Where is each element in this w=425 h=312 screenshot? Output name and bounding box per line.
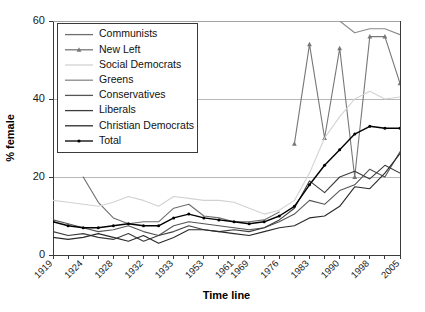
data-point-marker (172, 216, 175, 219)
y-tick-label: 60 (33, 14, 45, 26)
series-line (340, 21, 400, 35)
legend-label: Liberals (99, 103, 136, 115)
data-point-marker (157, 224, 160, 227)
x-tick-label: 1924 (62, 258, 85, 281)
data-point-marker (202, 216, 205, 219)
legend-label: New Left (99, 43, 141, 55)
chart-legend: CommunistsNew LeftSocial DemocratsGreens… (57, 23, 197, 153)
series-line (53, 152, 400, 236)
x-axis-title: Time line (203, 289, 250, 301)
data-point-marker (292, 141, 297, 146)
series-greens (340, 21, 400, 35)
data-point-marker (127, 222, 130, 225)
x-tick-label: 1932 (122, 258, 145, 281)
legend-label: Communists (99, 27, 157, 39)
series-new-left (292, 34, 402, 179)
x-tick-label: 1990 (318, 258, 341, 281)
series-line (53, 154, 400, 244)
x-tick-label: 1998 (349, 258, 372, 281)
x-tick-label: 1953 (183, 258, 206, 281)
data-point-marker (217, 218, 220, 221)
y-tick-label: 40 (33, 92, 45, 104)
series-conservatives (53, 152, 400, 236)
data-point-marker (142, 224, 145, 227)
data-point-marker (383, 127, 386, 130)
y-axis-title: % female (4, 114, 16, 162)
x-tick-label: 1976 (258, 258, 281, 281)
series-line (294, 37, 400, 177)
data-point-marker (307, 42, 312, 47)
data-point-marker (233, 220, 236, 223)
chart-container: 0204060% female1919192419281932193319531… (0, 0, 425, 312)
data-point-marker (52, 220, 55, 223)
series-christian-democrats (53, 154, 400, 244)
x-tick-label: 1969 (228, 258, 251, 281)
data-point-marker (97, 226, 100, 229)
line-chart: 0204060% female1919192419281932193319531… (0, 0, 425, 312)
data-point-marker (278, 215, 281, 218)
x-tick-label: 1983 (288, 258, 311, 281)
x-tick-label: 1933 (152, 258, 175, 281)
legend-label: Social Democrats (99, 58, 181, 70)
data-point-marker (368, 125, 371, 128)
x-tick-label: 1919 (32, 258, 55, 281)
legend-label: Greens (99, 73, 133, 85)
legend-label: Christian Democrats (99, 119, 194, 131)
legend-label: Total (99, 134, 121, 146)
data-point-marker (338, 148, 341, 151)
x-tick-label: 1928 (92, 258, 115, 281)
data-point-marker (67, 224, 70, 227)
y-tick-label: 20 (33, 170, 45, 182)
legend-label: Conservatives (99, 88, 166, 100)
data-point-marker (323, 164, 326, 167)
y-tick-label: 0 (39, 248, 45, 260)
data-point-marker (398, 81, 403, 86)
data-point-marker (293, 205, 296, 208)
data-point-marker (248, 222, 251, 225)
data-point-marker (82, 226, 85, 229)
data-point-marker (337, 46, 342, 51)
series-line (83, 177, 279, 224)
legend-marker (77, 139, 80, 142)
data-point-marker (112, 224, 115, 227)
data-point-marker (353, 133, 356, 136)
data-point-marker (187, 213, 190, 216)
data-point-marker (263, 220, 266, 223)
x-tick-label: 2005 (379, 258, 402, 281)
data-point-marker (308, 183, 311, 186)
data-point-marker (399, 127, 402, 130)
series-communists (83, 177, 279, 224)
